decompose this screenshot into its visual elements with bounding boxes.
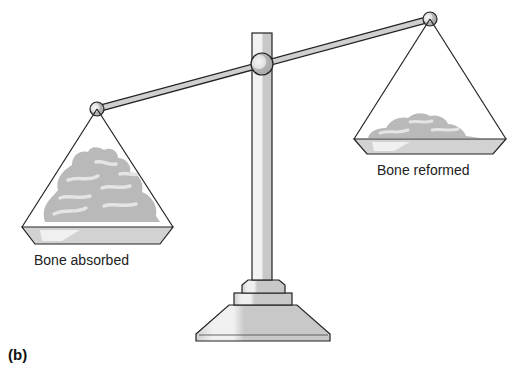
right-pan-label: Bone reformed xyxy=(377,162,470,178)
balance-scale-diagram: Bone reformed Bone absorbed (b) xyxy=(0,0,514,378)
balance-scale-illustration xyxy=(0,0,514,378)
panel-label: (b) xyxy=(8,346,27,363)
left-pan-label: Bone absorbed xyxy=(34,252,129,268)
right-pan xyxy=(354,19,506,154)
left-pan xyxy=(22,109,173,244)
scale-base xyxy=(196,280,330,341)
